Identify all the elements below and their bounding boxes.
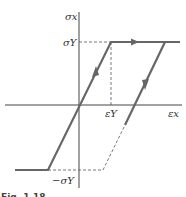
y-axis-label: σx xyxy=(65,11,78,22)
yield-stress-label: σY xyxy=(63,37,78,48)
arrow-right-icon xyxy=(131,39,139,46)
stress-strain-diagram: σx σY εY εx −σY Fig. 1.18 xyxy=(0,0,186,197)
figure-caption: Fig. 1.18 xyxy=(1,192,45,197)
x-axis-label: εx xyxy=(168,108,179,119)
yield-strain-label: εY xyxy=(105,108,118,119)
reverse-loading-guide xyxy=(103,125,125,170)
neg-yield-stress-label: −σY xyxy=(52,175,75,186)
